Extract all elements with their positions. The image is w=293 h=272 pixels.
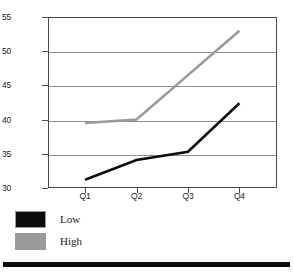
series-line-high [85, 31, 239, 123]
legend-item[interactable]: Low [15, 209, 135, 229]
series-layer [0, 0, 293, 205]
chart-page: 303540455055 Q1Q2Q3Q4 LowHigh [0, 0, 293, 272]
bottom-divider [3, 262, 290, 267]
legend-swatch [15, 211, 46, 228]
chart-legend: LowHigh [15, 209, 135, 253]
legend-swatch [15, 233, 46, 250]
series-line-low [85, 103, 239, 180]
legend-label: High [60, 235, 82, 247]
legend-label: Low [60, 213, 80, 225]
legend-item[interactable]: High [15, 231, 135, 251]
line-chart: 303540455055 Q1Q2Q3Q4 [0, 0, 293, 205]
